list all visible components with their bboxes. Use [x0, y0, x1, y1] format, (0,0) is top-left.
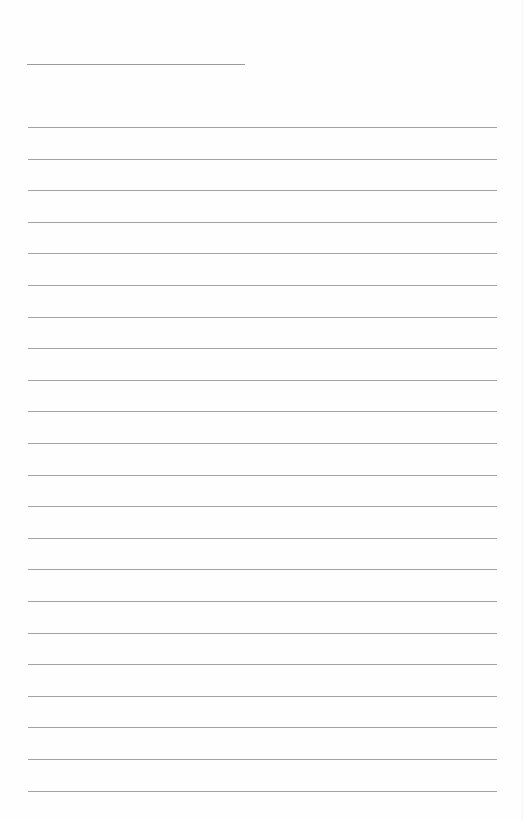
- ruled-line: [28, 759, 497, 760]
- ruled-line: [28, 159, 497, 160]
- ruled-line: [28, 380, 497, 381]
- ruled-line: [28, 727, 497, 728]
- ruled-line: [28, 348, 497, 349]
- ruled-line: [28, 506, 497, 507]
- ruled-line: [28, 285, 497, 286]
- header-short-line: [27, 64, 245, 65]
- lined-paper-page: [0, 0, 523, 821]
- ruled-line: [28, 127, 497, 128]
- ruled-line: [28, 696, 497, 697]
- ruled-line: [28, 791, 497, 792]
- ruled-line: [28, 411, 497, 412]
- ruled-line: [28, 190, 497, 191]
- ruled-line: [28, 222, 497, 223]
- ruled-line: [28, 475, 497, 476]
- ruled-line: [28, 601, 497, 602]
- ruled-line: [28, 633, 497, 634]
- ruled-line: [28, 664, 497, 665]
- ruled-line: [28, 569, 497, 570]
- ruled-line: [28, 538, 497, 539]
- ruled-line: [28, 317, 497, 318]
- ruled-line: [28, 253, 497, 254]
- ruled-line: [28, 443, 497, 444]
